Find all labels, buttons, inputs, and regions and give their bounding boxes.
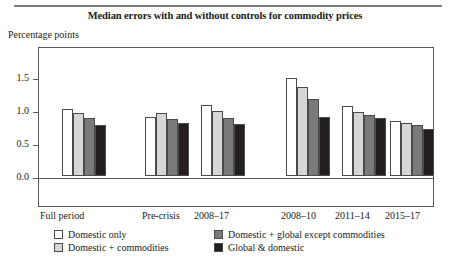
legend-label: Domestic only [68,229,127,240]
legend-label: Domestic + global except commodities [228,229,385,240]
legend-label: Domestic + commodities [68,242,169,253]
y-tick-label: 0.5 [17,138,30,149]
bar-group [286,45,330,176]
bar [156,113,167,176]
bar [73,113,84,176]
bar [297,87,308,176]
bar [178,123,189,176]
legend-swatch [54,243,63,252]
bar-group [342,45,386,176]
axis-baseline [39,178,433,179]
y-tick: 1.5 [33,79,39,80]
x-tick-label: 2015–17 [385,210,420,221]
y-tick-label: 1.0 [17,105,30,116]
y-axis-unit-label: Percentage points [8,29,79,40]
bar [353,112,364,176]
legend-row: Domestic onlyDomestic + global except co… [54,228,444,241]
bar [201,105,212,176]
bar [95,125,106,176]
bar [390,121,401,176]
x-tick-label: 2011–14 [335,210,370,221]
y-tick-label: 0.0 [17,171,30,182]
legend-swatch [54,230,63,239]
bar [364,115,375,176]
y-tick-label: 1.5 [17,72,30,83]
bar [234,124,245,176]
legend-row: Domestic + commoditiesGlobal & domestic [54,241,444,254]
plot-area: 0.00.51.01.5 [39,48,433,206]
legend-swatch [214,230,223,239]
header-rule [14,5,442,7]
y-tick: 0.5 [33,145,39,146]
bar [212,111,223,176]
legend-item: Global & domestic [214,242,304,253]
chart-legend: Domestic onlyDomestic + global except co… [54,228,444,254]
y-tick: 1.0 [33,112,39,113]
x-tick-label: Pre-crisis [142,210,180,221]
bar [62,109,73,176]
bar [308,99,319,176]
bar [401,123,412,176]
bar [319,117,330,176]
legend-swatch [214,243,223,252]
chart-title: Median errors with and without controls … [0,10,450,21]
legend-item: Domestic + global except commodities [214,229,385,240]
bar-group [145,45,189,176]
plot-frame: 0.00.51.01.5 [38,47,434,207]
bar [223,118,234,176]
bar [342,106,353,176]
bar [423,129,434,176]
x-tick-label: 2008–17 [194,210,229,221]
bar-group [390,45,434,176]
bar-group [62,45,106,176]
legend-item: Domestic only [54,229,214,240]
x-tick-label: 2008–10 [281,210,316,221]
legend-item: Domestic + commodities [54,242,214,253]
y-tick: 0.0 [33,178,39,179]
legend-label: Global & domestic [228,242,304,253]
bar-group [201,45,245,176]
bar [84,118,95,176]
bar [286,78,297,176]
bar [412,125,423,176]
bar [167,119,178,176]
x-tick-label: Full period [40,210,84,221]
bar [375,118,386,176]
bar [145,117,156,176]
